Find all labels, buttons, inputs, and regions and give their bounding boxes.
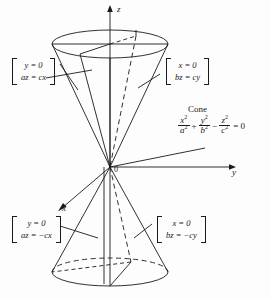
z-axis-arrowhead <box>107 5 113 12</box>
brace-right-icon <box>201 216 206 243</box>
condition-lower-left-line2: az = −cx <box>21 229 52 241</box>
condition-upper-right: x = 0 bz = cy <box>166 58 209 85</box>
term-a-denominator: a2 <box>178 125 190 135</box>
y-axis-label: y <box>232 168 236 177</box>
x-axis-back-extension <box>110 148 205 167</box>
upper-rim-radius-hidden-dashed <box>110 36 136 44</box>
cone-equation-caption: Cone x2 a2 + y2 b2 − z2 c2 = 0 <box>178 104 245 136</box>
condition-lower-right-rows: x = 0 bz = −cy <box>162 216 201 243</box>
lower-hidden-generator-dashed <box>110 167 131 262</box>
cone-equation: x2 a2 + y2 b2 − z2 c2 = 0 <box>178 116 245 136</box>
z-axis-label: z <box>117 5 121 14</box>
condition-upper-left-line2: az = cx <box>21 71 46 83</box>
condition-lower-right: x = 0 bz = −cy <box>157 216 206 243</box>
leader-lower-left <box>60 226 98 238</box>
equation-right-hand-side: = 0 <box>230 121 245 131</box>
upper-right-generator <box>110 44 168 167</box>
upper-rim-radius-x <box>80 44 110 54</box>
brace-right-icon <box>50 58 55 85</box>
cone-diagram-svg <box>0 0 270 298</box>
upper-left-generator <box>52 44 110 167</box>
upper-hidden-generator-dashed <box>110 36 136 167</box>
condition-upper-right-line2: bz = cy <box>175 71 200 83</box>
condition-upper-left: y = 0 az = cx <box>12 58 55 85</box>
condition-upper-right-rows: x = 0 bz = cy <box>171 58 204 85</box>
x-axis-line <box>62 167 110 208</box>
term-y-over-b: y2 b2 <box>199 116 211 136</box>
term-c-denominator: c2 <box>219 125 230 135</box>
condition-lower-left-rows: y = 0 az = −cx <box>17 216 56 243</box>
term-x-over-a: x2 a2 <box>178 116 190 136</box>
x-axis-label: x <box>62 204 66 213</box>
condition-lower-right-line1: x = 0 <box>166 217 197 229</box>
leader-upper-right <box>138 74 160 88</box>
lower-base-radius-front <box>110 262 131 286</box>
caption-title: Cone <box>178 104 245 114</box>
term-b-denominator: b2 <box>199 125 211 135</box>
brace-right-icon <box>204 58 209 85</box>
origin-label: 0 <box>114 166 118 174</box>
brace-right-icon <box>56 216 61 243</box>
equation-operator-minus: − <box>210 121 219 131</box>
condition-lower-right-line2: bz = −cy <box>166 229 197 241</box>
condition-lower-left-line1: y = 0 <box>21 217 52 229</box>
condition-upper-left-line1: y = 0 <box>21 59 46 71</box>
leader-upper-left-2 <box>60 64 78 90</box>
equation-operator-plus: + <box>190 121 199 131</box>
condition-upper-left-rows: y = 0 az = cx <box>17 58 50 85</box>
cone-figure: z y x 0 y = 0 az = cx x = 0 bz = cy y = … <box>0 0 270 298</box>
condition-lower-left: y = 0 az = −cx <box>12 216 61 243</box>
lower-base-radius-dashed <box>52 262 131 272</box>
term-z-over-c: z2 c2 <box>219 116 230 136</box>
cone-geometry <box>46 5 236 286</box>
condition-upper-right-line1: x = 0 <box>175 59 200 71</box>
